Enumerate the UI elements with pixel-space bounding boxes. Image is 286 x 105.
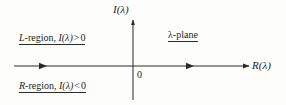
plane-label: λ-plane <box>168 30 198 42</box>
lower-region-operator: < <box>73 80 81 91</box>
lower-region-word: -region, <box>25 80 59 91</box>
lower-region-label: R-region, I(λ)<0 <box>19 81 86 93</box>
origin-label: 0 <box>137 70 142 80</box>
upper-region-function: I(λ) <box>58 32 72 43</box>
upper-region-value: 0 <box>80 32 85 43</box>
upper-region-label: L-region, I(λ)>0 <box>19 33 85 45</box>
lower-region-function: I(λ) <box>59 80 73 91</box>
horizontal-axis-arrowhead-left <box>39 63 47 69</box>
horizontal-axis-label: R(λ) <box>252 60 271 71</box>
upper-region-word: -region, <box>25 32 59 43</box>
horizontal-axis-arrowhead-mid <box>186 63 194 69</box>
lower-region-value: 0 <box>81 80 86 91</box>
lambda-plane-diagram: I(λ) R(λ) 0 λ-plane L-region, I(λ)>0 R-r… <box>0 0 286 105</box>
vertical-axis-label: I(λ) <box>113 4 129 15</box>
